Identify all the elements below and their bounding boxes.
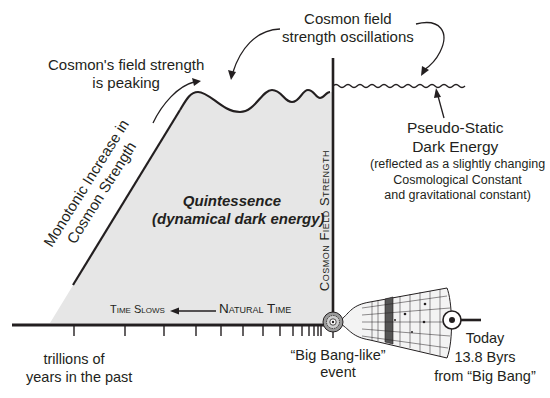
quintessence-label: Quintessence (dynamical dark energy) — [152, 192, 312, 228]
past-label-line1: trillions of — [26, 350, 122, 368]
pseudo-static-note-line1: (reflected as a slightly changing — [370, 157, 545, 173]
big-bang-label: “Big Bang-like” event — [290, 347, 386, 381]
time-axis-ticks — [74, 325, 333, 338]
today-label-line3: from “Big Bang” — [430, 367, 540, 386]
today-label-line2: 13.8 Byrs — [430, 348, 540, 367]
big-bang-starburst-icon — [323, 312, 343, 332]
peaking-label: Cosmon's field strength is peaking — [48, 56, 204, 92]
natural-time-label: Natural Time — [219, 301, 291, 316]
oscillations-arrow-left — [228, 29, 280, 80]
pseudo-static-title-line1: Pseudo-Static — [407, 118, 504, 137]
peaking-label-line2: is peaking — [48, 74, 204, 92]
past-label: trillions of years in the past — [26, 350, 122, 386]
big-bang-label-line1: “Big Bang-like” — [290, 347, 386, 364]
time-slows-label: Time Slows — [110, 303, 165, 315]
pseudo-static-note-line2: Cosmological Constant — [370, 173, 545, 189]
past-label-line2: years in the past — [26, 368, 122, 386]
today-label: Today 13.8 Byrs from “Big Bang” — [430, 329, 540, 386]
quintessence-title: Quintessence — [152, 192, 312, 210]
today-label-line1: Today — [430, 329, 540, 348]
pseudo-static-title: Pseudo-Static Dark Energy — [407, 118, 504, 156]
today-target-dot-icon — [443, 311, 481, 329]
pseudo-static-title-line2: Dark Energy — [407, 137, 504, 156]
oscillations-label: Cosmon field strength oscillations — [282, 10, 414, 46]
oscillations-arrow-right — [416, 23, 444, 76]
oscillations-label-line2: strength oscillations — [282, 28, 414, 46]
pseudo-static-oscillation — [333, 85, 465, 88]
peaking-label-line1: Cosmon's field strength — [48, 56, 204, 74]
pseudo-static-arrow — [434, 88, 444, 118]
vertical-axis-label: Cosmon Field Strength — [317, 146, 332, 296]
pseudo-static-note-line3: and gravitational constant) — [370, 188, 545, 204]
pseudo-static-note: (reflected as a slightly changing Cosmol… — [370, 157, 545, 204]
big-bang-label-line2: event — [290, 364, 386, 381]
quintessence-subtitle: (dynamical dark energy) — [152, 210, 312, 228]
oscillations-label-line1: Cosmon field — [282, 10, 414, 28]
